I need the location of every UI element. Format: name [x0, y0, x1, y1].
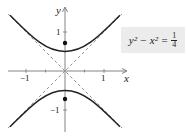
y-tick-label-neg1: −1: [50, 105, 60, 115]
x-tick-label-1: 1: [101, 73, 106, 83]
focus-lower: [63, 97, 67, 101]
fraction-numerator: 1: [172, 32, 176, 40]
hyperbola-plot: x y −1 1 1 −1: [0, 0, 186, 138]
x-axis-label: x: [123, 72, 129, 84]
y-tick-label-1: 1: [56, 27, 61, 37]
fraction-denominator: 4: [172, 41, 176, 49]
focus-upper: [63, 41, 67, 45]
equation-label: y² − x² = 1 4: [121, 27, 185, 53]
equation-fraction: 1 4: [171, 32, 177, 49]
x-tick-label-neg1: −1: [20, 73, 30, 83]
y-axis-label: y: [55, 4, 61, 16]
equation-lhs: y² − x² =: [129, 34, 168, 46]
